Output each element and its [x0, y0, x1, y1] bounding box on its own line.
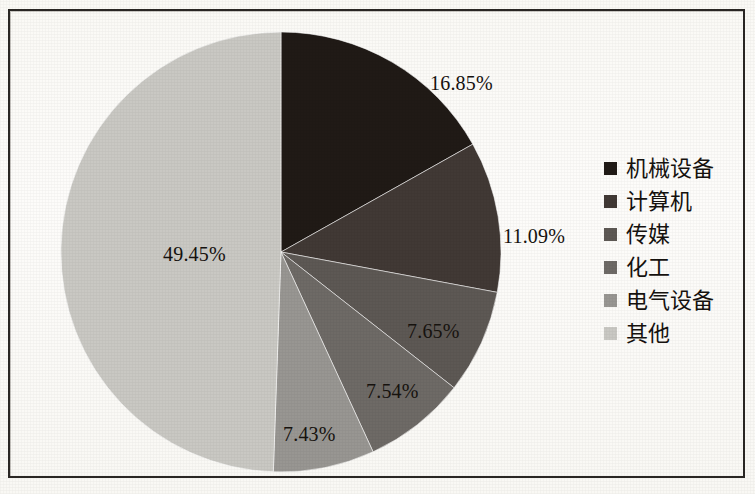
legend-item-label: 电气设备 [626, 290, 714, 312]
pie-slices-group [61, 32, 501, 472]
legend-item-label: 计算机 [626, 191, 692, 213]
legend-item: 传媒 [604, 218, 749, 251]
legend-swatch-icon [604, 294, 617, 307]
legend-swatch-icon [604, 195, 617, 208]
legend-item: 计算机 [604, 185, 749, 218]
legend-item-label: 化工 [626, 257, 670, 279]
legend-item-label: 其他 [626, 323, 670, 345]
legend-swatch-icon [604, 327, 617, 340]
slice-label-1: 11.09% [503, 225, 565, 248]
legend-swatch-icon [604, 162, 617, 175]
legend-item: 其他 [604, 317, 749, 350]
legend-item-label: 机械设备 [626, 158, 714, 180]
legend-item: 化工 [604, 251, 749, 284]
legend-swatch-icon [604, 261, 617, 274]
pie-chart-figure: 16.85% 11.09% 7.65% 7.54% 7.43% 49.45% 机… [0, 0, 755, 494]
legend-item: 电气设备 [604, 284, 749, 317]
legend-swatch-icon [604, 228, 617, 241]
slice-label-5: 49.45% [163, 243, 226, 266]
slice-label-2: 7.65% [407, 320, 460, 343]
legend: 机械设备计算机传媒化工电气设备其他 [604, 152, 749, 350]
legend-item: 机械设备 [604, 152, 749, 185]
slice-label-0: 16.85% [430, 72, 493, 95]
slice-label-3: 7.54% [366, 380, 419, 403]
slice-label-4: 7.43% [283, 423, 336, 446]
legend-item-label: 传媒 [626, 224, 670, 246]
